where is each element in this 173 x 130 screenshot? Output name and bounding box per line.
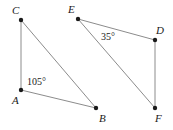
vertex-dot-c bbox=[19, 18, 23, 22]
vertex-label-f: F bbox=[155, 113, 162, 124]
vertex-label-a: A bbox=[12, 95, 19, 106]
vertex-label-d: D bbox=[156, 25, 164, 36]
figure-canvas bbox=[0, 0, 173, 130]
triangle-abc bbox=[21, 20, 96, 108]
vertex-label-b: B bbox=[99, 113, 106, 124]
vertex-dot-e bbox=[76, 17, 80, 21]
vertex-dot-b bbox=[94, 106, 98, 110]
vertex-label-c: C bbox=[12, 5, 19, 16]
triangle-def bbox=[78, 19, 155, 108]
vertex-dot-a bbox=[19, 88, 23, 92]
angle-label-e: 35° bbox=[101, 32, 115, 42]
vertex-dot-f bbox=[153, 106, 157, 110]
vertex-dot-d bbox=[153, 38, 157, 42]
angle-label-a: 105° bbox=[27, 77, 46, 87]
geometry-figure: CABEDF105°35° bbox=[0, 0, 173, 130]
shape-layer bbox=[21, 19, 155, 108]
vertex-label-e: E bbox=[68, 4, 75, 15]
